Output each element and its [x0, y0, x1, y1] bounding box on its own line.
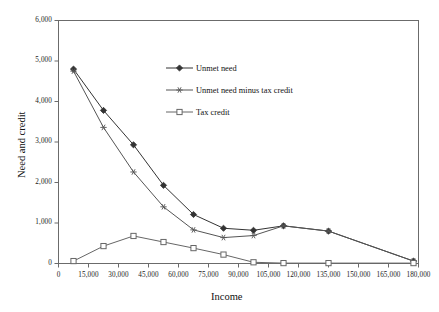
chart-plot-svg: [0, 0, 439, 312]
y-tick-label: 2,000: [20, 178, 52, 186]
chart-figure: 01,0002,0003,0004,0005,0006,000 015,0003…: [0, 0, 439, 312]
y-axis-ticks: [55, 21, 59, 264]
y-tick-label: 0: [20, 259, 52, 267]
y-tick-label: 1,000: [20, 218, 52, 226]
legend-label-unmet-need: Unmet need: [196, 64, 237, 73]
legend-label-unmet-need-minus-tax-credit: Unmet need minus tax credit: [196, 86, 293, 95]
plot-area-border: [59, 21, 419, 264]
legend-label-tax-credit: Tax credit: [196, 108, 230, 117]
y-tick-label: 5,000: [20, 56, 52, 64]
x-tick-label: 180,000: [397, 271, 439, 279]
y-tick-label: 6,000: [20, 16, 52, 24]
x-axis-title: Income: [211, 291, 243, 302]
y-axis-title: Need and credit: [16, 112, 27, 178]
x-axis-ticks: [59, 264, 419, 268]
y-tick-label: 4,000: [20, 97, 52, 105]
